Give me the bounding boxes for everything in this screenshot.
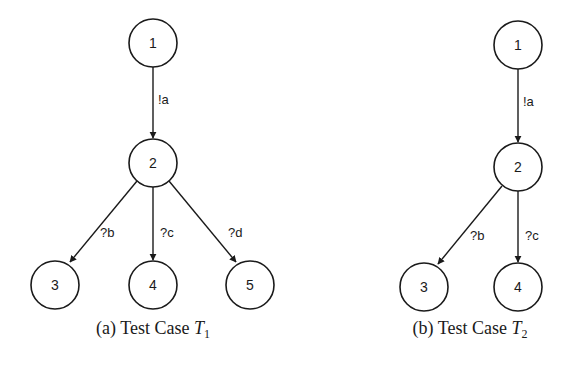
edge-2-5 (169, 181, 236, 262)
edge-label-a: !a (523, 94, 535, 109)
svg-text:4: 4 (514, 279, 522, 295)
edge-label-b: ?b (100, 225, 114, 240)
svg-text:3: 3 (51, 277, 59, 293)
figure-test-case-t1: !a ?b ?c ?d 1 2 3 4 5 (a) Test Case T1 (31, 19, 274, 341)
edge-2-3 (438, 186, 502, 264)
node-4: 4 (129, 261, 177, 309)
edge-label-a: !a (158, 92, 170, 107)
node-3: 3 (400, 263, 448, 311)
svg-text:4: 4 (149, 277, 157, 293)
node-1: 1 (494, 21, 542, 69)
svg-text:1: 1 (149, 35, 157, 51)
figure-test-case-t2: !a ?b ?c 1 2 3 4 (b) Test Case T2 (400, 21, 542, 341)
caption-t2: (b) Test Case T2 (413, 318, 528, 341)
node-2: 2 (129, 139, 177, 187)
edge-label-d: ?d (228, 225, 242, 240)
svg-text:2: 2 (149, 155, 157, 171)
edge-label-c: ?c (160, 225, 174, 240)
node-4: 4 (494, 263, 542, 311)
edge-2-3 (70, 181, 137, 262)
svg-text:2: 2 (514, 159, 522, 175)
node-5: 5 (226, 261, 274, 309)
node-1: 1 (129, 19, 177, 67)
svg-text:3: 3 (420, 279, 428, 295)
test-case-diagrams: !a ?b ?c ?d 1 2 3 4 5 (a) Test Case T1 !… (0, 0, 579, 371)
edge-label-b: ?b (470, 228, 484, 243)
node-2: 2 (494, 143, 542, 191)
node-3: 3 (31, 261, 79, 309)
svg-text:1: 1 (514, 37, 522, 53)
edge-label-c: ?c (525, 228, 539, 243)
caption-t1: (a) Test Case T1 (96, 318, 210, 341)
svg-text:5: 5 (246, 277, 254, 293)
